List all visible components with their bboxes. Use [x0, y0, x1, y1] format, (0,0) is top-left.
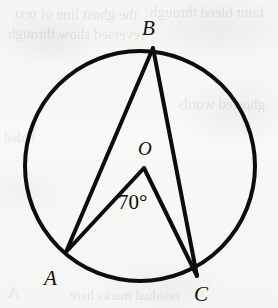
- circle-outline: [25, 51, 255, 281]
- point-label-a: A: [44, 266, 57, 291]
- segment-b-to-c: [153, 48, 197, 276]
- segment-o-to-c: [144, 168, 197, 276]
- point-label-o: O: [138, 138, 152, 160]
- point-label-b: B: [142, 16, 155, 41]
- figure-canvas: the ghost line of textfaint bleed throug…: [0, 0, 278, 308]
- angle-measure-label: 70°: [118, 190, 147, 215]
- point-label-c: C: [194, 282, 208, 307]
